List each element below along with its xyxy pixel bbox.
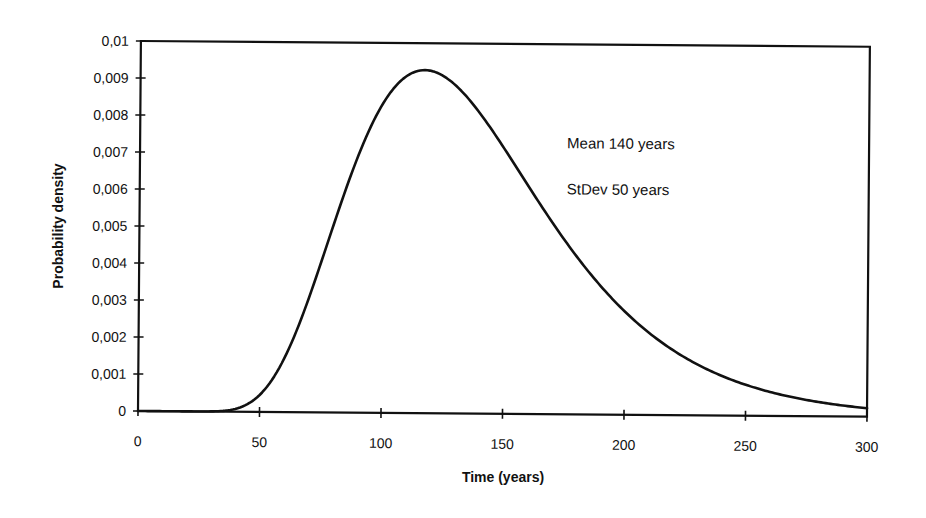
y-tick-label: 0,009 [94, 70, 129, 86]
y-tick-label: 0,007 [93, 144, 128, 160]
x-tick-label: 50 [251, 434, 267, 450]
x-tick-label: 150 [491, 436, 515, 452]
x-axis-ticks [138, 406, 867, 422]
y-tick-label: 0,003 [92, 292, 127, 308]
y-axis-tick-labels: 00,0010,0020,0030,0040,0050,0060,0070,00… [91, 33, 129, 419]
annotation-stdev: StDev 50 years [567, 180, 670, 198]
y-axis-title: Probability density [50, 163, 66, 288]
x-tick-label: 250 [734, 438, 758, 454]
y-tick-label: 0,006 [93, 181, 128, 197]
x-tick-label: 300 [855, 439, 879, 455]
y-tick-label: 0,008 [93, 107, 128, 123]
y-tick-label: 0 [118, 403, 126, 419]
y-tick-label: 0,01 [102, 33, 130, 49]
y-tick-label: 0,002 [91, 329, 126, 345]
x-axis-title: Time (years) [462, 469, 544, 485]
x-tick-label: 200 [612, 437, 636, 453]
annotation-mean: Mean 140 years [567, 134, 675, 152]
plot-group: 00,0010,0020,0030,0040,0050,0060,0070,00… [91, 33, 882, 455]
x-tick-label: 100 [369, 435, 393, 451]
chart: 00,0010,0020,0030,0040,0050,0060,0070,00… [0, 0, 926, 518]
x-tick-label: 0 [134, 433, 142, 449]
x-axis-tick-labels: 050100150200250300 [134, 433, 879, 455]
plot-frame [138, 41, 870, 417]
density-curve [138, 68, 870, 417]
y-tick-label: 0,001 [91, 366, 126, 382]
y-tick-label: 0,004 [92, 255, 127, 271]
y-tick-label: 0,005 [92, 218, 127, 234]
